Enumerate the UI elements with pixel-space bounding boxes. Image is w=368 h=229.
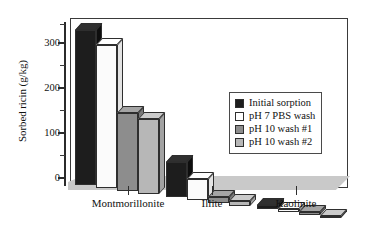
bar-kaolinite-ph10-wash-1 [299,212,320,215]
legend-label: pH 10 wash #2 [249,137,312,148]
bar-kaolinite-ph7-pbs-wash [278,209,299,212]
bar-face [278,209,299,212]
x-tick-label-montmorillonite: Montmorillonite [92,197,165,209]
bar-montmorillonite-ph10-wash-2 [138,119,159,194]
x-tick-label-kaolinite: Kaolinite [276,197,317,209]
x-tick-label-illite: Illite [202,197,223,209]
x-axis-tick-illite [212,186,213,195]
bar-kaolinite-ph10-wash-2 [320,216,341,218]
bar-illite-ph10-wash-2 [229,201,250,206]
bar-illite-initial-sorption [166,162,187,197]
bar-face [138,119,159,194]
legend-item-initial-sorption: Initial sorption [235,97,315,110]
chart-legend: Initial sorption pH 7 PBS wash pH 10 was… [229,92,322,154]
bar-face [96,45,117,188]
legend-label: Initial sorption [249,98,311,109]
legend-swatch-icon [235,112,244,121]
bar-face [320,216,341,218]
legend-swatch-icon [235,138,244,147]
bar-montmorillonite-ph7-pbs-wash [96,45,117,188]
bar-face [229,201,250,206]
x-axis-tick-kaolinite [296,186,297,195]
bar-face [75,30,96,185]
legend-swatch-icon [235,125,244,134]
legend-item-ph7-pbs-wash: pH 7 PBS wash [235,110,315,123]
bar-face [299,212,320,215]
legend-item-ph10-wash-1: pH 10 wash #1 [235,123,315,136]
legend-item-ph10-wash-2: pH 10 wash #2 [235,136,315,149]
x-axis-tick-montmorillonite [128,186,129,195]
legend-label: pH 10 wash #1 [249,124,312,135]
bar-face [117,113,138,191]
legend-label: pH 7 PBS wash [249,111,315,122]
bar-montmorillonite-ph10-wash-1 [117,113,138,191]
bar-side-face [159,112,165,194]
bar-face [166,162,187,197]
bar-montmorillonite-initial-sorption [75,30,96,185]
legend-swatch-icon [235,99,244,108]
chart-figure: Sorbed ricin (g/kg) 300 200 100 0 [0,0,368,229]
